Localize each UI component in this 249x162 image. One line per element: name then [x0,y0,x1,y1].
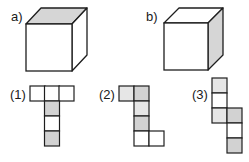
net-label: (2) [99,87,115,102]
cube-label: b) [146,9,158,24]
net-square [212,93,227,108]
net-square [134,116,149,131]
net-square [149,131,164,146]
diagram-canvas: a)b)(1)(2)(3) [0,0,249,162]
cube-label: a) [11,9,23,24]
net-square [212,78,227,93]
net-1: (1) [10,86,74,146]
net-square [59,86,74,101]
cube-net-diagram: a)b)(1)(2)(3) [0,0,249,162]
net-square [45,86,60,101]
net-2: (2) [99,86,164,146]
net-square [134,101,149,116]
net-label: (3) [192,87,208,102]
net-square [119,86,134,101]
net-square [45,116,60,131]
net-square [227,123,242,138]
net-square [45,131,60,146]
net-square [45,101,60,116]
net-square [134,86,149,101]
net-square [212,108,227,123]
cube-b: b) [146,8,223,70]
cube-front-face [164,23,208,70]
cube-a: a) [11,8,87,71]
net-label: (1) [10,87,26,102]
net-square [134,131,149,146]
net-square [30,86,45,101]
cube-front-face [26,24,72,71]
net-3: (3) [192,78,242,153]
net-square [227,108,242,123]
net-square [227,138,242,153]
